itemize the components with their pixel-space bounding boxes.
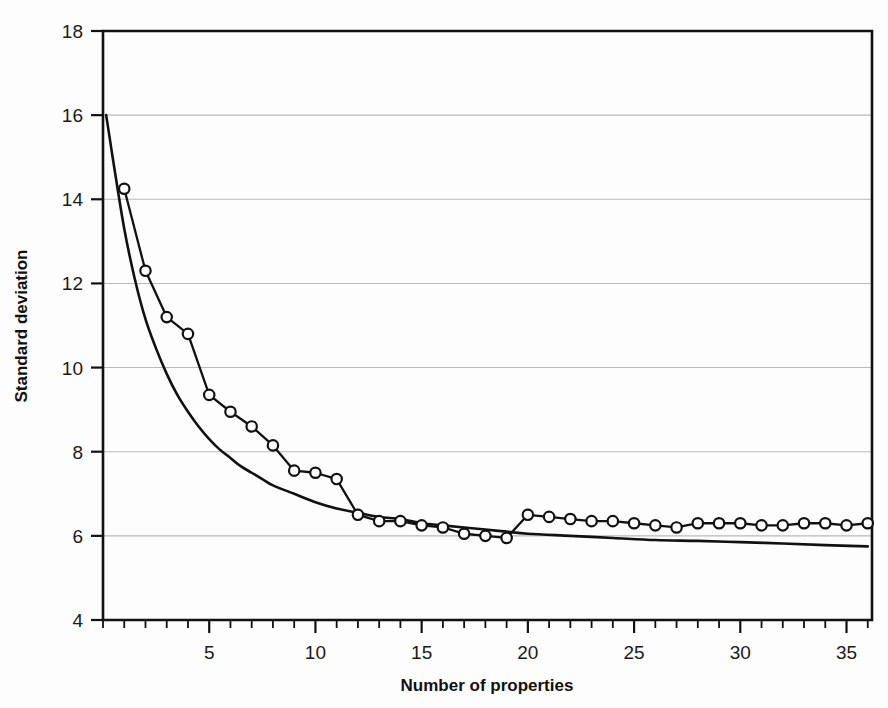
x-axis-label: Number of properties [401,676,574,695]
x-tick-label: 25 [624,642,645,663]
y-tick-label: 12 [62,273,83,294]
data-point-marker [310,468,320,478]
data-point-marker [735,518,745,528]
data-point-marker [247,421,257,431]
data-point-marker [438,522,448,532]
y-tick-label: 4 [72,610,83,631]
chart-page: 5101520253035 4681012141618 Number of pr… [0,0,888,708]
data-point-marker [416,520,426,530]
y-tick-label: 10 [62,358,83,379]
data-point-marker [586,516,596,526]
y-tick-label: 6 [72,526,83,547]
y-tick-label: 18 [62,21,83,42]
data-point-marker [140,266,150,276]
standard-deviation-line-chart: 5101520253035 4681012141618 Number of pr… [0,0,888,708]
data-point-marker [353,510,363,520]
x-tick-label: 20 [517,642,538,663]
data-point-marker [331,474,341,484]
x-tick-label: 35 [836,642,857,663]
data-point-marker [523,510,533,520]
data-point-marker [374,516,384,526]
y-tick-label: 16 [62,105,83,126]
data-point-marker [501,533,511,543]
data-point-marker [799,518,809,528]
x-tick-label: 15 [411,642,432,663]
data-point-marker [841,520,851,530]
data-point-marker [395,516,405,526]
data-point-marker [756,520,766,530]
x-tick-label: 10 [305,642,326,663]
y-tick-label: 14 [62,189,84,210]
data-point-marker [650,520,660,530]
data-point-marker [863,518,873,528]
data-point-marker [204,390,214,400]
x-tick-label: 30 [730,642,751,663]
data-point-marker [608,516,618,526]
data-point-marker [459,529,469,539]
data-point-marker [544,512,554,522]
data-point-marker [629,518,639,528]
data-point-marker [671,522,681,532]
data-point-marker [183,329,193,339]
data-point-marker [693,518,703,528]
chart-background [0,0,888,708]
y-tick-label: 8 [72,442,83,463]
data-point-marker [289,465,299,475]
data-point-marker [820,518,830,528]
x-tick-label: 5 [204,642,215,663]
data-point-marker [480,531,490,541]
data-point-marker [565,514,575,524]
data-point-marker [268,440,278,450]
data-point-marker [778,520,788,530]
data-point-marker [119,184,129,194]
data-point-marker [714,518,724,528]
data-point-marker [225,407,235,417]
y-axis-label: Standard deviation [12,249,31,402]
data-point-marker [162,312,172,322]
